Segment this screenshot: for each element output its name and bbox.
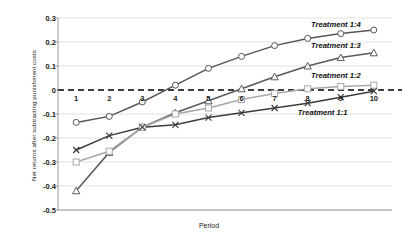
data-point-circle <box>106 113 112 119</box>
data-point-circle <box>371 27 377 33</box>
series-label: Treatment 1:3 <box>311 41 361 50</box>
series-line <box>76 85 374 162</box>
series-label: Treatment 1:2 <box>311 71 361 80</box>
data-point-circle <box>305 35 311 41</box>
x-tick-label: 7 <box>273 94 277 103</box>
x-axis-title: Period <box>0 222 418 229</box>
data-point-circle <box>205 65 211 71</box>
data-point-circle <box>73 119 79 125</box>
data-point-square <box>73 159 79 165</box>
data-point-circle <box>272 43 278 49</box>
x-tick-label: 4 <box>173 94 177 103</box>
data-point-circle <box>239 53 245 59</box>
data-point-square <box>305 86 311 92</box>
x-tick-label: 10 <box>370 94 378 103</box>
data-point-square <box>371 82 377 88</box>
data-point-square <box>106 148 112 154</box>
data-point-circle <box>172 82 178 88</box>
data-point-square <box>205 105 211 111</box>
data-point-square <box>172 111 178 117</box>
data-point-circle <box>338 31 344 37</box>
plot-area <box>0 0 418 246</box>
series-label: Treatment 1:1 <box>298 108 348 117</box>
x-tick-label: 5 <box>206 94 210 103</box>
data-point-square <box>338 83 344 89</box>
x-tick-label: 1 <box>74 94 78 103</box>
chart-container: Net returns after subtracting punishment… <box>0 0 418 246</box>
x-tick-label: 8 <box>306 94 310 103</box>
x-tick-label: 3 <box>140 94 144 103</box>
series-label: Treatment 1:4 <box>311 20 361 29</box>
series-line <box>76 91 374 150</box>
data-point-x <box>73 147 79 153</box>
x-tick-label: 6 <box>239 94 243 103</box>
x-tick-label: 2 <box>107 94 111 103</box>
x-tick-label: 9 <box>339 94 343 103</box>
